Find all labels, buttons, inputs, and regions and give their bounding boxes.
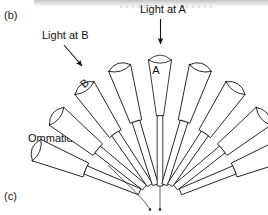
- nerve-terminal-dot: [149, 208, 151, 210]
- ommatidium-cone: [109, 65, 147, 125]
- ommatidium-lens: [149, 55, 172, 63]
- ommatidium-letter-a: A: [152, 64, 160, 76]
- nerve-terminal-dot: [159, 208, 161, 210]
- light-at-b-arrow-icon: [64, 45, 82, 66]
- nerve-terminals: [149, 208, 161, 210]
- figure-panel-b: (b) (c) Light at A Light at B Ommatidia: [0, 0, 268, 215]
- ommatidia-fan-diagram: A B: [0, 0, 268, 215]
- ommatidium-rhabdom: [157, 116, 163, 186]
- ommatidia-group: [28, 55, 268, 202]
- ommatidium-cone: [173, 65, 211, 125]
